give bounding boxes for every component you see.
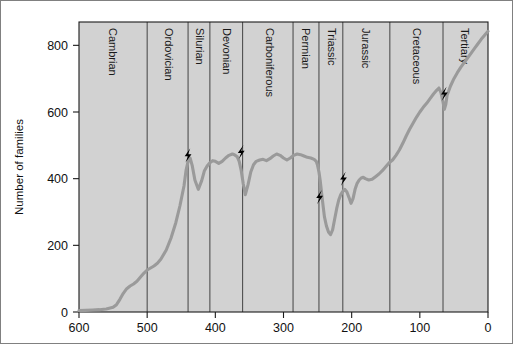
plot-background	[79, 22, 488, 312]
x-tick-label-400: 400	[205, 321, 226, 335]
period-label-cambrian: Cambrian	[107, 28, 119, 76]
diversity-chart: CambrianOrdovicianSilurianDevonianCarbon…	[1, 1, 512, 343]
x-tick-label-0: 0	[485, 321, 492, 335]
period-label-silurian: Silurian	[194, 28, 206, 65]
y-tick-label-600: 600	[47, 106, 68, 120]
x-tick-label-500: 500	[137, 321, 158, 335]
period-label-triassic: Triassic	[326, 28, 338, 66]
period-label-permian: Permian	[300, 28, 312, 69]
period-label-tertiary: Tertiary	[459, 28, 471, 65]
x-tick-label-100: 100	[409, 321, 430, 335]
chart-canvas: CambrianOrdovicianSilurianDevonianCarbon…	[1, 1, 512, 343]
period-label-jurassic: Jurassic	[360, 28, 372, 69]
y-axis-title: Number of families	[13, 119, 25, 215]
period-label-ordovician: Ordovician	[163, 28, 175, 81]
x-tick-label-300: 300	[273, 321, 294, 335]
y-tick-label-800: 800	[47, 39, 68, 53]
y-tick-label-200: 200	[47, 239, 68, 253]
y-tick-label-400: 400	[47, 172, 68, 186]
x-tick-label-200: 200	[341, 321, 362, 335]
y-tick-label-0: 0	[61, 306, 68, 320]
period-label-carboniferous: Carboniferous	[264, 28, 276, 98]
period-label-devonian: Devonian	[221, 28, 233, 74]
period-label-cretaceous: Cretaceous	[411, 28, 423, 85]
x-axis-title: Millions of years ago	[231, 341, 336, 343]
x-tick-label-600: 600	[69, 321, 90, 335]
